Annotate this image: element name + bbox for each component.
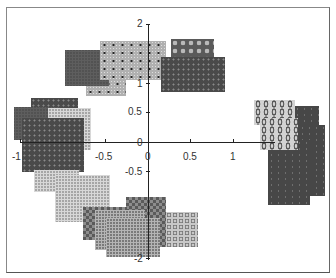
- x-tick-label: 1: [230, 152, 236, 162]
- y-tick-label: 0: [137, 138, 143, 148]
- y-tick: [146, 112, 150, 113]
- y-tick-label: -0.5: [125, 167, 142, 177]
- texture-thumbnail: [260, 118, 298, 150]
- texture-thumbnail: [161, 57, 225, 92]
- x-tick-label: -0.5: [95, 152, 112, 162]
- y-tick: [146, 258, 150, 259]
- y-tick: [146, 24, 150, 25]
- texture-thumbnail: [106, 218, 160, 257]
- y-tick-label: 2: [137, 19, 143, 29]
- x-tick-label: -1: [12, 152, 21, 162]
- y-axis: [148, 24, 149, 260]
- x-tick: [105, 139, 106, 143]
- y-tick-label: 0.5: [128, 107, 142, 117]
- y-tick: [146, 171, 150, 172]
- y-tick: [146, 83, 150, 84]
- y-tick-label: 1: [137, 79, 143, 89]
- x-tick-label: 0.5: [183, 152, 197, 162]
- texture-thumbnail: [166, 212, 198, 247]
- x-tick-label: 0: [145, 152, 151, 162]
- x-tick: [233, 139, 234, 143]
- x-tick: [190, 139, 191, 143]
- x-tick: [20, 139, 21, 143]
- y-tick-label: -2: [134, 254, 143, 264]
- texture-thumbnail: [100, 41, 166, 80]
- texture-thumbnail: [22, 118, 84, 172]
